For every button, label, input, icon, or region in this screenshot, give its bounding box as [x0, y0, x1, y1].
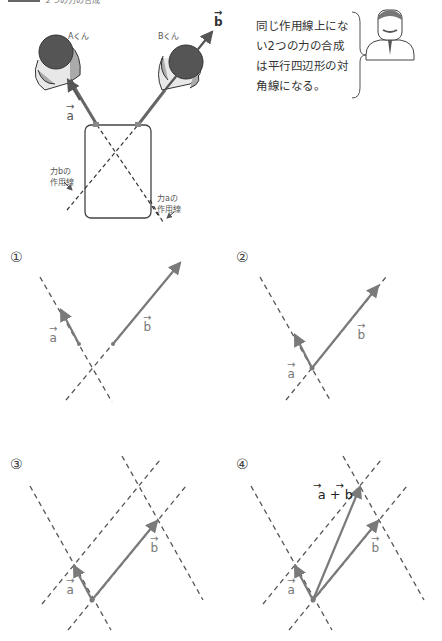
line-b-caption: 力bの 作用線 — [50, 166, 74, 188]
diagram-3-a-label: →a — [66, 578, 74, 596]
diagram-2-number: ② — [236, 249, 249, 265]
speech-line: 同じ作用線上にな — [256, 16, 354, 36]
diagram-4-number: ④ — [236, 456, 249, 472]
diagram-4-sum-label: →→a + b — [313, 483, 358, 501]
speech-line: は平行四辺形の対 — [256, 56, 354, 76]
diagram-1 — [40, 262, 181, 402]
box — [85, 125, 151, 218]
illustration-vector-b-label: →b — [214, 10, 223, 28]
diagram-1-a-label: →a — [49, 326, 57, 344]
diagram-4-b-label: →b — [371, 536, 379, 554]
diagram-1-number: ① — [10, 249, 23, 265]
diagram-2-b-label: →b — [357, 323, 365, 341]
speech-line: 角線になる。 — [256, 76, 354, 96]
person-a-label: Aくん — [68, 31, 89, 42]
professor-icon — [366, 10, 414, 60]
diagram-3-b-label: →b — [150, 536, 158, 554]
person-a-figure — [35, 35, 80, 90]
speech-line: い2つの力の合成 — [256, 36, 354, 56]
diagram-4-a-label: →a — [287, 578, 295, 596]
line-a-caption: 力aの 作用線 — [157, 193, 181, 215]
diagram-2-a-label: →a — [287, 362, 295, 380]
speech-brace — [352, 12, 366, 98]
person-b-label: Bくん — [158, 31, 180, 42]
diagram-1-b-label: →b — [143, 315, 151, 333]
speech-text: 同じ作用線上にな い2つの力の合成 は平行四辺形の対 角線になる。 — [256, 16, 354, 96]
diagram-3 — [30, 456, 203, 630]
diagram-2 — [260, 277, 386, 400]
diagram-3-number: ③ — [10, 456, 23, 472]
tug-illustration — [35, 32, 212, 222]
illustration-vector-a-label: →a — [66, 104, 74, 122]
